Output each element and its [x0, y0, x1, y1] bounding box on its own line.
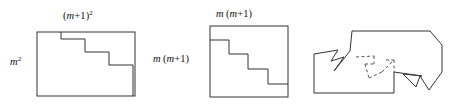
- staircase-path: [210, 40, 288, 84]
- figure-root: (m+1)2 m2 m (m+1) m (m+1): [0, 0, 452, 110]
- squared-rectangle-panel: (m+1)2 m2: [0, 0, 150, 110]
- dashed-seam-6: [382, 60, 394, 72]
- staircase-path: [61, 32, 133, 96]
- assembled-outline: [314, 31, 442, 93]
- label-m-times-m-plus-1-top: m (m+1): [216, 9, 252, 20]
- interlocked-assembly-diagram: [302, 0, 452, 110]
- label-m-times-m-plus-1-left: m (m+1): [153, 54, 189, 65]
- dashed-seam-1: [356, 56, 374, 57]
- label-m-squared: m2: [10, 57, 21, 68]
- exponent-two: 2: [18, 55, 22, 63]
- product-square-panel: m (m+1) m (m+1): [150, 0, 302, 110]
- outer-rectangle: [37, 32, 135, 96]
- exponent-two: 2: [89, 9, 93, 17]
- outer-square: [210, 26, 288, 97]
- dashed-seam-5: [369, 72, 382, 78]
- interlocked-assembly-panel: [302, 0, 452, 110]
- dashed-seam-4: [365, 64, 369, 78]
- label-m-plus-1-squared: (m+1)2: [63, 11, 93, 22]
